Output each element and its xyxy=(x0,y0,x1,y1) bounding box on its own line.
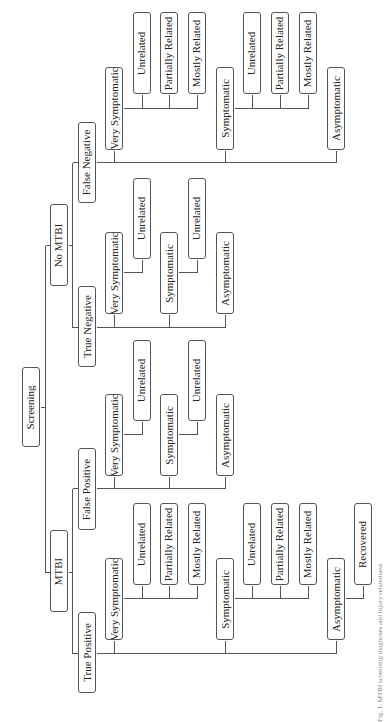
node-label: Unrelated xyxy=(137,522,148,565)
node-label: Unrelated xyxy=(192,359,203,402)
node-tp-sym-unrel: Unrelated xyxy=(243,503,261,585)
node-tp-asym: Asymptomatic xyxy=(327,558,345,640)
node-label: Very Symptomatic xyxy=(109,232,120,314)
node-label: Symptomatic xyxy=(220,79,231,138)
node-false-negative: False Negative xyxy=(78,122,96,203)
node-label: Mostly Related xyxy=(303,510,314,578)
node-false-positive: False Positive xyxy=(78,448,96,530)
node-label: Very Symptomatic xyxy=(109,558,120,640)
node-tp-very: Very Symptomatic xyxy=(105,558,123,640)
node-tp-sym-most: Mostly Related xyxy=(299,503,317,585)
node-tn-very-unrel: Unrelated xyxy=(133,178,151,259)
node-tp-very-unrel: Unrelated xyxy=(133,503,151,585)
node-label: True Negative xyxy=(82,295,93,358)
node-fp-asym: Asymptomatic xyxy=(216,394,234,476)
node-label: Symptomatic xyxy=(164,406,175,465)
node-screening: Screening xyxy=(22,367,40,447)
node-label: False Positive xyxy=(82,458,93,519)
node-tn-sym-unrel: Unrelated xyxy=(188,178,206,259)
node-label: Asymptomatic xyxy=(331,567,342,632)
node-label: Asymptomatic xyxy=(331,76,342,141)
node-label: Unrelated xyxy=(137,197,148,240)
node-label: Mostly Related xyxy=(192,19,203,87)
node-label: Very Symptomatic xyxy=(109,67,120,149)
node-true-negative: True Negative xyxy=(78,286,96,367)
node-fn-very: Very Symptomatic xyxy=(105,67,123,150)
screening-tree-diagram: ScreeningNo MTBIMTBIFalse NegativeTrue N… xyxy=(0,0,388,722)
node-tp-asym-recov: Recovered xyxy=(354,503,372,585)
node-label: Symptomatic xyxy=(220,570,231,629)
node-label: Asymptomatic xyxy=(220,403,231,468)
node-fn-very-part: Partially Related xyxy=(160,12,178,94)
node-fn-sym-part: Partially Related xyxy=(271,12,289,94)
node-tn-very: Very Symptomatic xyxy=(105,232,123,314)
node-label: Partially Related xyxy=(164,16,175,90)
node-no-mtbi: No MTBI xyxy=(50,204,68,286)
node-fn-asym: Asymptomatic xyxy=(327,67,345,150)
node-label: Mostly Related xyxy=(192,510,203,578)
node-label: Screening xyxy=(26,385,37,429)
node-label: Mostly Related xyxy=(303,19,314,87)
node-tp-sym-part: Partially Related xyxy=(271,503,289,585)
node-label: Asymptomatic xyxy=(220,241,231,306)
node-fp-very-unrel: Unrelated xyxy=(133,340,151,421)
node-fn-sym: Symptomatic xyxy=(216,67,234,150)
node-tp-very-part: Partially Related xyxy=(160,503,178,585)
node-label: Partially Related xyxy=(164,507,175,581)
node-fp-very: Very Symptomatic xyxy=(105,394,123,476)
node-label: Unrelated xyxy=(192,197,203,240)
node-label: Very Symptomatic xyxy=(109,394,120,476)
node-label: Unrelated xyxy=(137,359,148,402)
node-label: Recovered xyxy=(358,520,369,567)
node-fn-sym-most: Mostly Related xyxy=(299,12,317,94)
node-fp-sym-unrel: Unrelated xyxy=(188,340,206,421)
node-fn-very-unrel: Unrelated xyxy=(133,12,151,94)
node-fn-very-most: Mostly Related xyxy=(188,12,206,94)
node-fn-sym-unrel: Unrelated xyxy=(243,12,261,94)
node-tn-sym: Symptomatic xyxy=(160,232,178,314)
node-label: True Positive xyxy=(82,623,93,682)
node-tn-asym: Asymptomatic xyxy=(216,232,234,314)
node-label: Partially Related xyxy=(275,507,286,581)
node-fp-sym: Symptomatic xyxy=(160,394,178,476)
node-label: False Negative xyxy=(82,130,93,196)
node-label: Unrelated xyxy=(247,31,258,74)
node-label: MTBI xyxy=(54,557,65,585)
node-label: No MTBI xyxy=(54,223,65,267)
node-true-positive: True Positive xyxy=(78,612,96,693)
node-mtbi: MTBI xyxy=(50,530,68,612)
node-label: Unrelated xyxy=(247,522,258,565)
node-tp-very-most: Mostly Related xyxy=(188,503,206,585)
node-label: Unrelated xyxy=(137,31,148,74)
figure-caption: Fig. 1. MTBI screening diagnoses and inj… xyxy=(376,564,384,722)
node-label: Partially Related xyxy=(275,16,286,90)
node-tp-sym: Symptomatic xyxy=(216,558,234,640)
node-label: Symptomatic xyxy=(164,244,175,303)
